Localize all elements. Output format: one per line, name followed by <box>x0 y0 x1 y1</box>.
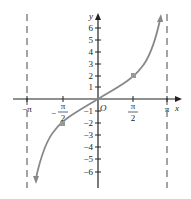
svg-text:π: π <box>131 101 136 111</box>
curve-arrow-bottom-icon <box>33 176 39 184</box>
svg-text:−5: −5 <box>83 154 93 164</box>
point-half-pi <box>131 73 136 78</box>
curve-arrow-top-icon <box>157 14 163 22</box>
svg-text:−4: −4 <box>83 142 93 152</box>
svg-text:2: 2 <box>89 71 94 81</box>
svg-text:3: 3 <box>89 59 94 69</box>
origin-label: O <box>100 103 107 113</box>
svg-text:−2: −2 <box>83 118 93 128</box>
tangent-graph: 6 5 4 3 2 1 −1 −2 −3 −4 −5 −6 y x O −π π… <box>0 0 191 199</box>
svg-text:π: π <box>61 101 66 111</box>
x-tick-neg-pi: −π <box>22 104 32 114</box>
svg-text:6: 6 <box>89 23 94 33</box>
y-axis-arrow-icon <box>95 13 101 20</box>
x-tick-pi: π <box>165 104 170 114</box>
svg-text:1: 1 <box>89 82 94 92</box>
x-axis-label: x <box>174 103 179 113</box>
y-axis-label: y <box>88 11 93 21</box>
svg-text:2: 2 <box>131 113 136 123</box>
svg-text:4: 4 <box>89 47 94 57</box>
svg-text:−6: −6 <box>83 167 93 177</box>
x-axis-arrow-icon <box>175 96 182 102</box>
x-tick-half-pi: π 2 <box>128 101 138 123</box>
svg-text:5: 5 <box>89 35 94 45</box>
svg-text:−: − <box>51 108 56 118</box>
svg-text:−3: −3 <box>83 130 93 140</box>
point-neg-half-pi <box>60 121 65 126</box>
y-tick-labels: 6 5 4 3 2 1 −1 −2 −3 −4 −5 −6 <box>83 23 93 177</box>
